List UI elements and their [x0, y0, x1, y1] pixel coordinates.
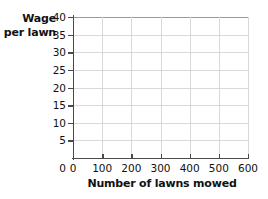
gridline-vertical: [248, 17, 249, 158]
wage-per-lawn-chart: Wage per lawn 05101520253035400100200300…: [0, 0, 268, 199]
x-axis-tick-label: 100: [87, 163, 117, 173]
x-axis-title: Number of lawns mowed: [73, 177, 251, 190]
gridline-vertical: [161, 17, 162, 158]
x-axis-tick: [248, 154, 249, 159]
y-axis-tick-label: 25: [38, 65, 66, 75]
y-axis-tick-label: 15: [38, 100, 66, 110]
x-axis-tick-label: 0: [58, 163, 88, 173]
x-axis-tick: [190, 154, 191, 159]
x-axis-tick-label: 400: [175, 163, 205, 173]
x-axis-tick: [131, 154, 132, 159]
y-axis-tick-label: 20: [38, 83, 66, 93]
y-axis-tick: [68, 17, 73, 18]
x-axis-tick-label: 500: [204, 163, 234, 173]
x-axis-tick: [219, 154, 220, 159]
y-axis-tick: [68, 70, 73, 71]
plot-area: [73, 17, 248, 158]
y-axis-tick-label: 30: [38, 47, 66, 57]
x-axis-tick-label: 600: [233, 163, 263, 173]
gridline-vertical: [102, 17, 103, 158]
y-axis-tick: [68, 123, 73, 124]
x-axis-tick-label: 300: [146, 163, 176, 173]
gridline-vertical: [190, 17, 191, 158]
y-axis-tick-label: 5: [38, 135, 66, 145]
y-axis-tick: [68, 105, 73, 106]
gridline-vertical: [131, 17, 132, 158]
y-axis-line: [73, 15, 74, 160]
y-axis-tick: [68, 52, 73, 53]
y-axis-tick: [68, 88, 73, 89]
y-axis-tick-label: 10: [38, 118, 66, 128]
y-axis-tick-label: 35: [38, 30, 66, 40]
x-axis-tick-label: 200: [116, 163, 146, 173]
y-axis-tick: [68, 35, 73, 36]
x-axis-tick: [161, 154, 162, 159]
y-axis-tick: [68, 140, 73, 141]
gridline-vertical: [219, 17, 220, 158]
x-axis-tick: [102, 154, 103, 159]
y-axis-tick-label: 40: [38, 12, 66, 22]
